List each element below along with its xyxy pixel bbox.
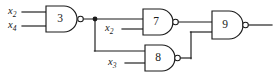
gate-8: 8 [145,45,180,71]
signal-label-x2-mid-subscript: 2 [110,26,114,35]
gate-7-label: 7 [153,15,159,27]
signal-label-x4-subscript: 4 [13,23,17,32]
signal-label-x2-top-subscript: 2 [13,9,17,18]
signal-label-x2-mid: x2 [104,22,114,35]
gate-9-inversion-bubble [243,22,249,28]
gate-7: 7 [143,9,178,35]
gate-3: 3 [46,6,83,32]
junction-dot [93,17,98,22]
gate-8-label: 8 [155,51,161,63]
logic-circuit-figure: 3 7 8 9 x2 x4 x [0,0,279,75]
gate-7-inversion-bubble [173,19,179,25]
gate-8-inversion-bubble [175,55,181,61]
logic-circuit-canvas: 3 7 8 9 x2 x4 x [0,0,279,75]
signal-label-x3-subscript: 3 [112,60,117,69]
gate-9: 9 [212,11,248,39]
signal-label-x3: x3 [107,56,117,69]
net-gate3-fanout [83,17,145,51]
gate-3-inversion-bubble [78,16,84,22]
signal-label-x4: x4 [7,19,17,32]
signal-label-x2-top: x2 [7,5,17,18]
gate-9-label: 9 [222,18,228,30]
gate-3-label: 3 [57,12,63,24]
net-gate8-to-gate9 [180,32,212,59]
